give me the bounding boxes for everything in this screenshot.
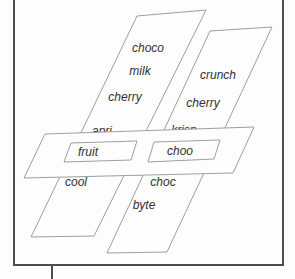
- fruit-box: [64, 141, 137, 162]
- label-cherry-right: cherry: [186, 96, 220, 110]
- label-choo: choo: [167, 144, 193, 158]
- schema-diagram-canvas: choco milk cherry apri cool crunch cherr…: [0, 0, 295, 279]
- label-milk: milk: [129, 64, 151, 78]
- label-crunch: crunch: [200, 68, 236, 82]
- label-byte: byte: [133, 198, 156, 212]
- diagram-figure: choco milk cherry apri cool crunch cherr…: [0, 0, 295, 279]
- label-choco: choco: [132, 41, 164, 55]
- crossing-band-shape: [24, 127, 254, 178]
- label-choc: choc: [150, 175, 175, 189]
- label-cherry-left: cherry: [108, 90, 142, 104]
- label-fruit: fruit: [78, 145, 99, 159]
